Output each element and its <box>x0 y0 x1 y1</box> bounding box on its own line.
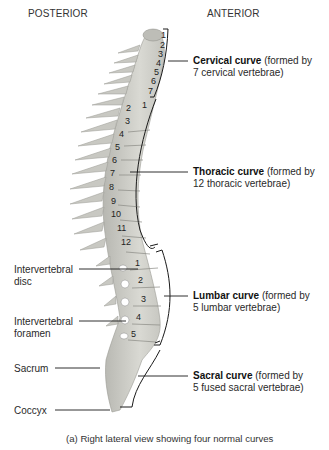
thoracic-curve-label: Thoracic curve (formed by 12 thoracic ve… <box>193 166 315 190</box>
svg-text:7: 7 <box>110 168 115 178</box>
svg-text:1: 1 <box>142 100 147 110</box>
svg-text:2: 2 <box>138 275 143 285</box>
vertebral-column <box>103 30 164 412</box>
intervertebral-foramen-label: Intervertebralforamen <box>14 316 73 340</box>
svg-text:9: 9 <box>111 196 116 206</box>
svg-text:7: 7 <box>148 86 153 96</box>
svg-text:4: 4 <box>119 129 124 139</box>
svg-text:6: 6 <box>151 76 156 86</box>
svg-text:4: 4 <box>136 312 141 322</box>
svg-text:5: 5 <box>115 142 120 152</box>
svg-text:8: 8 <box>109 182 114 192</box>
svg-text:6: 6 <box>112 155 117 165</box>
svg-text:2: 2 <box>126 103 131 113</box>
sacral-curve-label: Sacral curve (formed by 5 fused sacral v… <box>193 370 304 394</box>
svg-text:3: 3 <box>141 294 146 304</box>
sacrum-label: Sacrum <box>14 363 48 375</box>
lumbar-curve-label: Lumbar curve (formed by 5 lumbar vertebr… <box>193 290 310 314</box>
coccyx-label: Coccyx <box>14 405 47 417</box>
svg-text:10: 10 <box>111 209 121 219</box>
figure-caption: (a) Right lateral view showing four norm… <box>66 433 273 444</box>
intervertebral-disc-label: Intervertebraldisc <box>14 264 73 288</box>
svg-text:3: 3 <box>125 116 130 126</box>
svg-text:1: 1 <box>161 30 166 40</box>
svg-text:11: 11 <box>117 223 126 233</box>
cervical-curve-label: Cervical curve (formed by 7 cervical ver… <box>193 55 312 79</box>
svg-text:5: 5 <box>131 329 136 339</box>
svg-text:1: 1 <box>135 258 140 268</box>
svg-text:12: 12 <box>121 237 131 247</box>
